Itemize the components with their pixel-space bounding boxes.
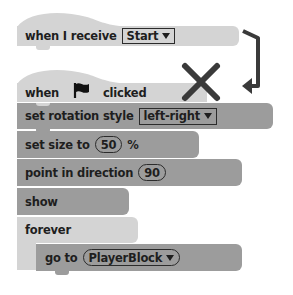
block-notch	[55, 271, 69, 275]
go-to-label: go to	[45, 251, 78, 265]
percent-label: %	[127, 138, 138, 152]
forever-label: forever	[25, 223, 71, 237]
show-block[interactable]: show	[17, 188, 129, 215]
bent-arrow-icon	[240, 28, 280, 100]
set-size-block[interactable]: set size to 50 %	[17, 131, 199, 158]
clicked-label: clicked	[103, 86, 147, 100]
size-value: 50	[101, 138, 117, 152]
direction-label: point in direction	[25, 166, 133, 180]
go-to-target-dropdown[interactable]: PlayerBlock	[83, 249, 181, 266]
set-rotation-style-block[interactable]: set rotation style left-right	[17, 103, 273, 129]
direction-value: 90	[144, 166, 160, 180]
x-mark-icon	[181, 64, 221, 100]
show-label: show	[25, 195, 58, 209]
block-notch	[36, 103, 50, 106]
rotation-style-dropdown[interactable]: left-right	[139, 108, 218, 125]
hat-cap-shape	[17, 68, 127, 84]
receive-label: when I receive	[25, 29, 117, 43]
rotation-style-value: left-right	[144, 109, 201, 123]
direction-input[interactable]: 90	[138, 164, 166, 181]
forever-left-arm	[17, 243, 36, 270]
size-input[interactable]: 50	[95, 136, 123, 153]
block-notch	[36, 46, 50, 50]
green-flag-icon	[73, 82, 91, 98]
when-label: when	[25, 86, 59, 100]
block-notch	[36, 129, 50, 133]
hat-cap-shape	[17, 11, 127, 27]
message-dropdown[interactable]: Start	[122, 28, 176, 44]
go-to-target-value: PlayerBlock	[89, 251, 163, 265]
dropdown-arrow-icon	[204, 113, 212, 119]
dropdown-arrow-icon	[166, 255, 174, 261]
go-to-block[interactable]: go to PlayerBlock	[36, 244, 242, 271]
message-dropdown-value: Start	[127, 29, 159, 43]
dropdown-arrow-icon	[162, 33, 170, 39]
set-size-label: set size to	[25, 138, 90, 152]
point-in-direction-block[interactable]: point in direction 90	[17, 159, 242, 186]
rotation-label: set rotation style	[25, 109, 134, 123]
